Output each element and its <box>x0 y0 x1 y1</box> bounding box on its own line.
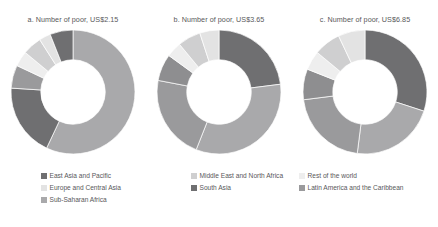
legend-swatch-icon <box>299 173 305 179</box>
legend-item[interactable]: South Asia <box>191 185 299 192</box>
legend-swatch-icon <box>299 185 305 191</box>
chart-panel-c: c. Number of poor, US$6.85 <box>292 0 438 168</box>
legend-items-container: East Asia and PacificMiddle East and Nor… <box>41 170 397 206</box>
legend-item-label: South Asia <box>200 185 232 192</box>
legend-swatch-icon <box>41 185 47 191</box>
donut-svg-b <box>155 28 283 156</box>
legend-item[interactable]: Rest of the world <box>299 173 397 180</box>
legend-item[interactable]: Sub-Saharan Africa <box>41 197 191 204</box>
chart-panel-b: b. Number of poor, US$3.65 <box>146 0 292 168</box>
legend-item-label: Europe and Central Asia <box>50 185 121 192</box>
legend-item-label: Rest of the world <box>308 173 357 180</box>
legend-item[interactable]: East Asia and Pacific <box>41 173 191 180</box>
figure-panel-chart: a. Number of poor, US$2.15 b. Number of … <box>0 0 438 227</box>
legend-swatch-icon <box>191 185 197 191</box>
donut-slice <box>303 96 360 153</box>
legend-item-label: Latin America and the Caribbean <box>308 185 404 192</box>
donut-chart-c <box>301 28 429 156</box>
legend-swatch-icon <box>41 173 47 179</box>
donut-svg-a <box>9 28 137 156</box>
chart-legend: East Asia and PacificMiddle East and Nor… <box>0 170 438 227</box>
chart-panel-a: a. Number of poor, US$2.15 <box>0 0 146 168</box>
chart-title-a: a. Number of poor, US$2.15 <box>28 15 119 24</box>
donut-slice <box>157 80 207 149</box>
chart-title-b: b. Number of poor, US$3.65 <box>174 15 265 24</box>
legend-swatch-icon <box>191 173 197 179</box>
legend-item-label: East Asia and Pacific <box>50 173 112 180</box>
legend-swatch-icon <box>41 197 47 203</box>
donut-charts-row: a. Number of poor, US$2.15 b. Number of … <box>0 0 438 168</box>
legend-item[interactable]: Latin America and the Caribbean <box>299 185 397 192</box>
donut-chart-a <box>9 28 137 156</box>
legend-item-label: Middle East and North Africa <box>200 173 284 180</box>
donut-svg-c <box>301 28 429 156</box>
donut-chart-b <box>155 28 283 156</box>
legend-item-label: Sub-Saharan Africa <box>50 197 107 204</box>
donut-slice <box>357 102 424 154</box>
donut-slice <box>219 30 281 88</box>
donut-slice <box>196 84 281 154</box>
chart-title-c: c. Number of poor, US$6.85 <box>320 15 410 24</box>
legend-item[interactable]: Middle East and North Africa <box>191 173 299 180</box>
legend-item[interactable]: Europe and Central Asia <box>41 185 191 192</box>
donut-slice <box>365 30 427 111</box>
